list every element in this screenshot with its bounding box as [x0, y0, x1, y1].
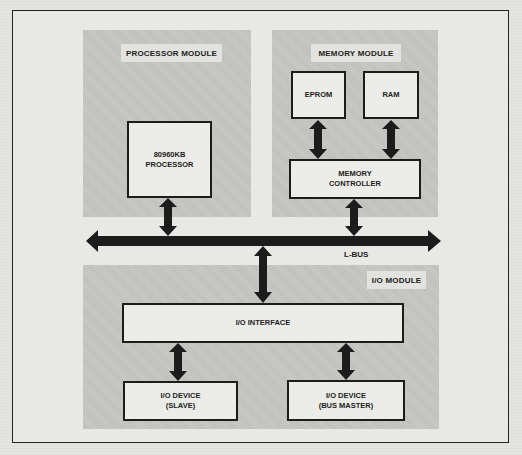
processor-bus-arrow	[159, 198, 177, 236]
eprom-controller-arrow	[309, 120, 327, 159]
io-interface-bus-master-arrow	[337, 343, 355, 380]
l-bus-label: L-BUS	[344, 250, 368, 259]
bus-io-interface-arrow	[254, 246, 272, 303]
io-interface-slave-arrow	[169, 343, 187, 381]
ram-controller-arrow	[382, 120, 400, 159]
memory-controller-bus-arrow	[345, 199, 363, 236]
connections-layer	[0, 0, 522, 455]
